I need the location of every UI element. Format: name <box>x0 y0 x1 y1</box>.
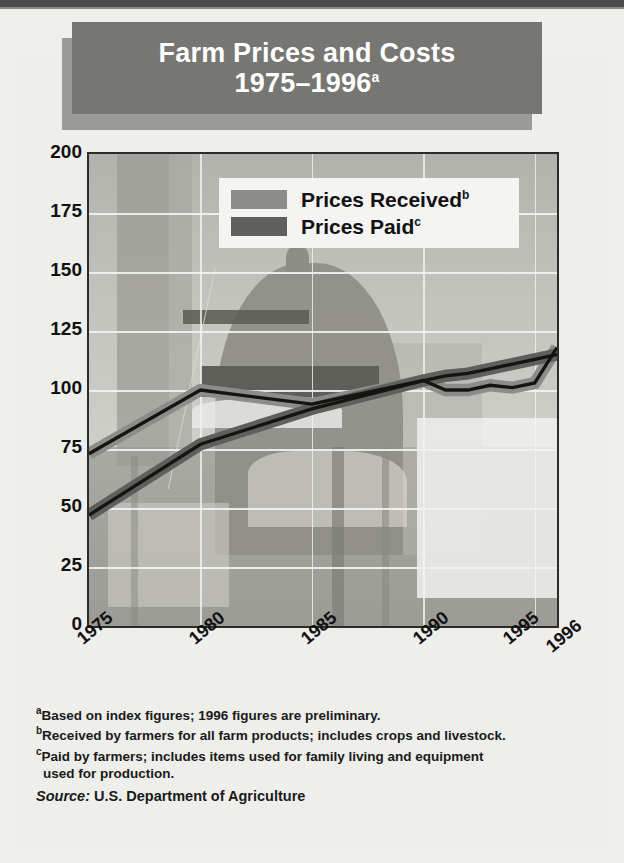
series-band-prices-paid <box>89 355 557 515</box>
chart-legend: Prices Receivedb Prices Paidc <box>219 178 519 248</box>
chart-page: Farm Prices and Costs 1975–1996a 200 175… <box>0 0 624 863</box>
footnote-b: bReceived by farmers for all farm produc… <box>36 724 596 744</box>
footnote-c: cPaid by farmers; includes items used fo… <box>36 745 596 765</box>
legend-swatch-prices-received <box>231 190 287 209</box>
series-line-prices-paid <box>89 355 557 515</box>
legend-label-prices-received: Prices Receivedb <box>301 188 469 212</box>
legend-item-prices-paid: Prices Paidc <box>231 213 507 240</box>
y-tick-125: 125 <box>32 318 82 340</box>
y-tick-25: 25 <box>32 554 82 576</box>
y-tick-150: 150 <box>32 259 82 281</box>
legend-swatch-prices-paid <box>231 217 287 236</box>
footnote-c-continued: used for production. <box>36 765 596 783</box>
y-tick-175: 175 <box>32 200 82 222</box>
legend-label-prices-paid: Prices Paidc <box>301 215 421 239</box>
source-line: Source: U.S. Department of Agriculture <box>36 788 596 804</box>
plot-area: Prices Receivedb Prices Paidc <box>87 152 559 628</box>
y-tick-200: 200 <box>32 141 82 163</box>
source-value: U.S. Department of Agriculture <box>94 788 305 804</box>
footnotes: aBased on index figures; 1996 figures ar… <box>36 704 596 804</box>
y-tick-75: 75 <box>32 436 82 458</box>
legend-item-prices-received: Prices Receivedb <box>231 186 507 213</box>
x-axis-labels: 1975 1980 1985 1990 1995 1996 <box>87 627 557 687</box>
footnote-a: aBased on index figures; 1996 figures ar… <box>36 704 596 724</box>
chart-title-line2: 1975–1996a <box>235 68 380 98</box>
y-tick-100: 100 <box>32 377 82 399</box>
chart-title-line1: Farm Prices and Costs <box>159 38 456 68</box>
top-rule <box>0 0 624 7</box>
chart-area: 200 175 150 125 100 75 50 25 0 <box>30 143 560 643</box>
title-banner: Farm Prices and Costs 1975–1996a <box>62 22 542 132</box>
y-tick-50: 50 <box>32 495 82 517</box>
y-axis-labels: 200 175 150 125 100 75 50 25 0 <box>30 152 82 624</box>
title-banner-face: Farm Prices and Costs 1975–1996a <box>72 22 542 114</box>
source-label: Source: <box>36 788 90 804</box>
chart-title-footnote-marker: a <box>371 69 379 85</box>
chart-title-years: 1975–1996 <box>235 68 372 98</box>
top-rule-secondary <box>0 7 624 9</box>
